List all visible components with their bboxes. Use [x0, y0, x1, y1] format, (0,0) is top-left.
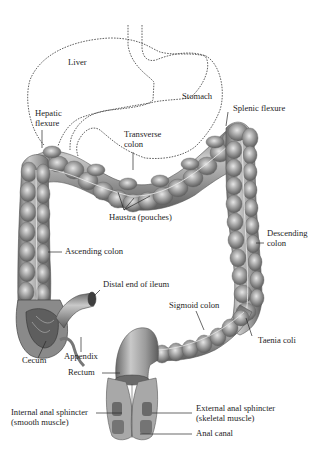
- label-liver: Liver: [68, 58, 87, 68]
- label-ascending-colon: Ascending colon: [65, 247, 123, 257]
- label-cecum: Cecum: [22, 356, 46, 366]
- label-hepatic-flexure-line2: flexure: [35, 119, 59, 129]
- anal-canal-region: [106, 378, 157, 440]
- label-distal-ileum: Distal end of ileum: [103, 280, 169, 290]
- large-intestine-diagram: Liver Stomach Hepatic flexure Splenic fl…: [0, 0, 330, 459]
- sigmoid-colon: [148, 305, 252, 363]
- label-anal-canal: Anal canal: [196, 429, 233, 439]
- label-taenia-coli: Taenia coli: [258, 336, 296, 346]
- ileum: [56, 292, 96, 328]
- label-haustra: Haustra (pouches): [109, 213, 172, 223]
- label-splenic-flexure: Splenic flexure: [233, 104, 285, 114]
- label-appendix: Appendix: [64, 352, 98, 362]
- label-external-sphincter-line2: (skeletal muscle): [196, 414, 254, 424]
- label-descending-colon-line2: colon: [267, 239, 286, 249]
- label-stomach: Stomach: [182, 92, 212, 102]
- rectum: [115, 328, 158, 385]
- label-transverse-colon-line2: colon: [124, 140, 143, 150]
- label-internal-sphincter-line2: (smooth muscle): [11, 418, 69, 428]
- descending-colon: [226, 122, 264, 335]
- label-rectum: Rectum: [68, 368, 95, 378]
- label-sigmoid-colon: Sigmoid colon: [169, 301, 219, 311]
